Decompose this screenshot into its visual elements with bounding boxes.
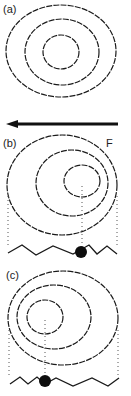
zigzag-surface xyxy=(8,245,117,255)
arrow-left-icon xyxy=(6,120,18,128)
panel-c: (c) xyxy=(6,269,119,387)
middle-contour xyxy=(25,19,99,85)
inner-contour xyxy=(64,165,100,197)
middle-contour xyxy=(36,150,108,216)
panel-b: (b) F xyxy=(3,135,117,258)
inner-contour xyxy=(43,35,79,69)
force-arrow xyxy=(6,120,118,128)
force-label: F xyxy=(106,137,113,149)
panel-c-label: (c) xyxy=(6,269,19,281)
dot-marker xyxy=(75,246,87,258)
figure: (a) (b) F (c) xyxy=(0,0,131,396)
zigzag-surface xyxy=(10,377,119,386)
dot-marker xyxy=(39,375,51,387)
outer-contour xyxy=(7,135,117,235)
panel-a: (a) xyxy=(3,3,116,97)
panel-a-label: (a) xyxy=(3,3,16,15)
panel-b-label: (b) xyxy=(3,137,16,149)
middle-contour xyxy=(17,285,91,349)
